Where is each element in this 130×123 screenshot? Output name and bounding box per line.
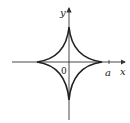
origin-label: 0	[61, 66, 67, 76]
astroid-diagram: y x 0 a	[0, 0, 130, 123]
astroid-curve	[37, 27, 102, 100]
x-intercept-label: a	[105, 67, 111, 78]
y-axis-label: y	[59, 7, 66, 18]
x-axis-label: x	[120, 66, 126, 77]
